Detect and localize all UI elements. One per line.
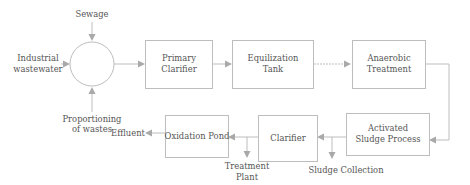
- clarifier-label: Clarifier: [270, 133, 305, 143]
- primary-clarifier-box: Primary Clarifier: [146, 41, 213, 89]
- industrial-label-line2: wastewater: [13, 64, 62, 74]
- equalization-line2: Tank: [263, 64, 284, 74]
- proportioning-arrow: [89, 87, 96, 112]
- diagram-canvas: Sewage Industrial wastewater Proportioni…: [0, 0, 470, 185]
- proportioning-label-line1: Proportioning: [62, 114, 122, 124]
- activated-sludge-line1: Activated: [367, 123, 409, 133]
- arrow-to-sludge-collection: [329, 137, 336, 159]
- mixing-node: [70, 42, 114, 86]
- equalization-line1: Equilization: [248, 53, 299, 63]
- arrow-equalization-to-anaerobic: [314, 61, 351, 68]
- oxidation-pond-box: Oxidation Pond: [165, 116, 230, 158]
- sewage-label: Sewage: [75, 9, 108, 19]
- primary-clarifier-line2: Clarifier: [161, 64, 196, 74]
- anaerobic-treatment-box: Anaerobic Treatment: [353, 41, 426, 89]
- activated-sludge-box: Activated Sludge Process: [347, 114, 430, 156]
- proportioning-label-line2: of wastes: [72, 124, 112, 134]
- equalization-tank-box: Equilization Tank: [233, 41, 314, 89]
- clarifier-box: Clarifier: [259, 116, 318, 162]
- sewage-arrow: [89, 22, 96, 41]
- oxidation-pond-label: Oxidation Pond: [165, 131, 230, 141]
- arrow-mixing-to-primary: [114, 61, 145, 68]
- treatment-plant-line2: Plant: [236, 172, 259, 182]
- primary-clarifier-line1: Primary: [162, 53, 196, 63]
- wastewater-flow-diagram: Sewage Industrial wastewater Proportioni…: [0, 0, 470, 185]
- arrow-to-treatment-plant: [244, 137, 251, 158]
- industrial-label-line1: Industrial: [17, 53, 59, 63]
- anaerobic-line2: Treatment: [367, 64, 412, 74]
- effluent-label: Effluent: [111, 128, 145, 138]
- arrow-to-effluent: [145, 130, 165, 137]
- anaerobic-line1: Anaerobic: [366, 53, 410, 63]
- sludge-collection-label: Sludge Collection: [308, 165, 384, 175]
- arrow-primary-to-equalization: [213, 61, 232, 68]
- activated-sludge-line2: Sludge Process: [355, 134, 420, 144]
- arrow-clarifier-to-oxidation: [228, 134, 258, 141]
- treatment-plant-line1: Treatment: [225, 161, 270, 171]
